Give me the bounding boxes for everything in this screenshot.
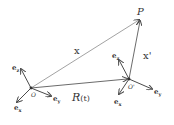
ez-label: ez (12, 63, 19, 73)
frame-origin-prime (119, 60, 152, 94)
vector-r-arg: (t) (80, 94, 89, 103)
vector-x-arrow (31, 20, 139, 88)
origin-prime-label: O' (128, 83, 135, 90)
ez-axis-arrow (21, 69, 31, 88)
ey-prime-label: ey (154, 87, 162, 98)
ex-label: ex (14, 103, 22, 113)
ey-label: ey (53, 94, 61, 105)
vector-r-main: R (71, 91, 80, 104)
origin-point (30, 87, 33, 90)
origin-label: O (31, 91, 36, 98)
point-p-label: P (136, 6, 144, 17)
ez-prime-label: ez (112, 51, 119, 61)
ex-prime-label: ex (114, 97, 122, 107)
vector-r-arrow (31, 79, 127, 88)
vector-x-prime-arrow (129, 21, 140, 79)
ex-axis-arrow (17, 88, 31, 102)
vector-r-label: R(t) (71, 91, 90, 104)
vector-x-prime-label: x' (143, 50, 151, 61)
frame-diagram: P x x' R(t) O O' ez ey ex ez ey ex (0, 0, 174, 125)
vector-x-label: x (74, 45, 80, 56)
ez-prime-axis-arrow (119, 60, 129, 79)
origin-prime-point (128, 78, 131, 81)
